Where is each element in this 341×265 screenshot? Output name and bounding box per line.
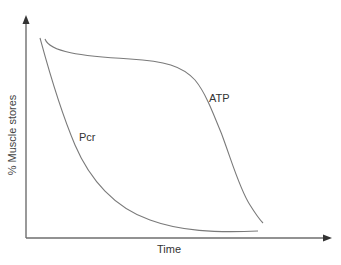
x-axis-label: Time xyxy=(157,244,181,255)
atp-curve-label: ATP xyxy=(209,93,230,104)
chart-canvas xyxy=(0,0,341,265)
x-axis-arrow-icon xyxy=(323,235,332,242)
pcr-curve-label: Pcr xyxy=(79,132,96,143)
pcr-curve xyxy=(40,38,258,232)
atp-curve xyxy=(45,39,263,223)
y-axis-label: % Muscle stores xyxy=(7,95,18,176)
y-axis-arrow-icon xyxy=(23,15,30,24)
